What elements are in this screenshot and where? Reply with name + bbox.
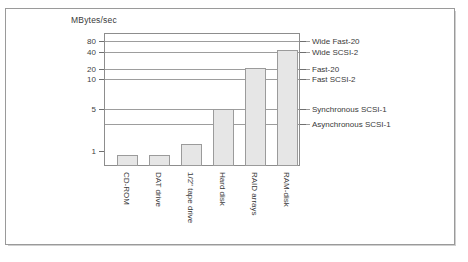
- ytick-label-10: 10: [70, 75, 96, 84]
- ytick-mark-5: [99, 109, 104, 110]
- ytick-label-40: 40: [70, 48, 96, 57]
- xlabel-hard-disk: Hard disk: [218, 172, 227, 206]
- reference-tick-fast-scsi-2: [300, 79, 306, 80]
- bar-raid-arrays: [245, 68, 266, 166]
- bar-cd-rom: [117, 155, 138, 166]
- ytick-mark-40: [99, 52, 104, 53]
- reference-label-fast-20: Fast-20: [312, 65, 339, 74]
- reference-label-synchronous-scsi-1: Synchronous SCSI-1: [312, 105, 387, 114]
- bar-hard-disk: [213, 109, 234, 166]
- reference-label-fast-scsi-2: Fast SCSI-2: [312, 75, 356, 84]
- ytick-mark-20: [99, 69, 104, 70]
- bar-half-inch-tape: [181, 144, 202, 166]
- reference-label-wide-fast-20: Wide Fast-20: [312, 37, 360, 46]
- plot-area: [104, 33, 300, 166]
- bar-chart: MBytes/sec 80 40 20 10 5 1 Wide Fast-20 …: [0, 0, 468, 262]
- ytick-label-1: 1: [70, 147, 96, 156]
- reference-tick-wide-fast-20: [300, 41, 306, 42]
- ytick-label-5: 5: [70, 105, 96, 114]
- reference-tick-synchronous-scsi-1: [300, 109, 306, 110]
- xlabel-raid-arrays: RAID arrays: [250, 172, 259, 216]
- reference-tick-asynchronous-scsi-1: [300, 124, 306, 125]
- bar-ram-disk: [277, 50, 298, 166]
- ytick-mark-1: [99, 151, 104, 152]
- y-axis-title: MBytes/sec: [71, 15, 117, 25]
- reference-label-asynchronous-scsi-1: Asynchronous SCSI-1: [312, 120, 391, 129]
- reference-label-wide-scsi-2: Wide SCSI-2: [312, 48, 358, 57]
- xlabel-half-inch-tape: 1/2" tape drive: [186, 172, 195, 223]
- xlabel-ram-disk: RAM-disk: [282, 172, 291, 207]
- ytick-mark-10: [99, 79, 104, 80]
- ytick-mark-80: [99, 41, 104, 42]
- ytick-label-20: 20: [70, 65, 96, 74]
- ytick-label-80: 80: [70, 37, 96, 46]
- xlabel-dat-drive: DAT drive: [154, 172, 163, 207]
- bar-dat-drive: [149, 155, 170, 166]
- xlabel-cd-rom: CD-ROM: [122, 172, 131, 205]
- reference-tick-wide-scsi-2: [300, 52, 306, 53]
- reference-tick-fast-20: [300, 69, 306, 70]
